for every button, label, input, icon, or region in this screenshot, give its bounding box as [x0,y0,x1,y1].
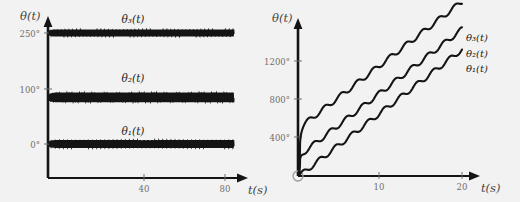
left-chart-label-theta1: θ₁(t) [122,125,145,137]
right-chart-xtick-20: 20 [457,182,468,192]
left-chart-ytick-250: 250° [20,29,40,39]
left-chart-curve-theta2 [49,93,234,103]
left-chart-xtick-40: 40 [139,184,150,194]
right-chart-label-theta3: θ₃(t) [466,32,488,43]
left-chart-curve-theta3 [49,29,234,36]
figure-canvas: θ(t) t(s) 250° 100° 0° 40 80 θ₁(t) θ₂(t)… [0,0,520,202]
left-chart-y-axis-title: θ(t) [20,9,41,23]
left-chart-ytick-0: 0° [30,140,40,150]
left-chart-label-theta2: θ₂(t) [122,72,145,84]
left-chart-x-axis-title: t(s) [248,183,268,197]
right-chart-x-axis-title: t(s) [481,181,501,195]
right-chart-label-theta1: θ₁(t) [466,63,488,74]
right-chart-ytick-1200: 1200° [264,57,290,67]
left-chart-curve-theta1 [49,140,234,148]
right-chart-y-axis-title: θ(t) [272,11,293,25]
right-chart-ytick-400: 400° [270,133,290,143]
left-chart-label-theta3: θ₃(t) [122,13,145,25]
right-chart-label-theta2: θ₂(t) [466,48,488,59]
left-chart-xtick-80: 80 [220,184,231,194]
right-chart-xtick-10: 10 [374,182,385,192]
left-chart-ytick-100: 100° [20,85,40,95]
right-chart-ytick-800: 800° [270,95,290,105]
